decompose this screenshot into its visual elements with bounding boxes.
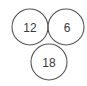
circle-node-18: 18 (31, 44, 67, 80)
circle-diagram: 12 6 18 (0, 0, 87, 86)
circle-label: 12 (23, 21, 37, 35)
circle-node-6: 6 (48, 9, 84, 45)
circle-label: 18 (42, 56, 56, 70)
circle-node-12: 12 (12, 9, 48, 45)
circle-label: 6 (64, 21, 71, 35)
